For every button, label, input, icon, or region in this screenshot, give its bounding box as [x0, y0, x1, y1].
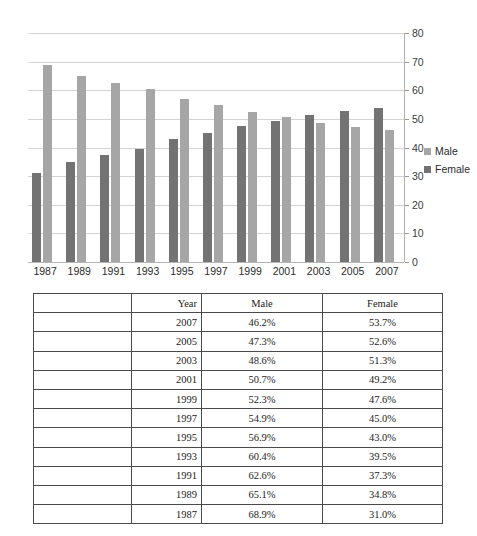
table-row: 199162.6%37.3%	[34, 466, 443, 485]
table-cell-female: 39.5%	[323, 447, 443, 466]
x-axis-label-2007: 2007	[370, 266, 404, 277]
legend-label-female: Female	[435, 164, 470, 175]
table-header-blank	[34, 294, 132, 313]
table-cell-blank	[34, 313, 132, 332]
table-cell-year: 1999	[132, 389, 202, 408]
table-cell-female: 31.0%	[323, 505, 443, 524]
legend-label-male: Male	[435, 146, 458, 157]
bar-group-1991	[96, 33, 130, 262]
gridline-0	[28, 262, 404, 263]
table-cell-female: 37.3%	[323, 466, 443, 485]
x-axis-label-1991: 1991	[96, 266, 130, 277]
bar-male-1997	[214, 105, 223, 262]
table-header-female: Female	[323, 294, 443, 313]
x-axis-label-2003: 2003	[301, 266, 335, 277]
bar-chart-figure: 80706050403020100 1987198919911993199519…	[0, 0, 477, 288]
bar-female-1993	[135, 149, 144, 262]
legend-item-male[interactable]: Male	[424, 142, 477, 160]
bar-male-1989	[77, 76, 86, 262]
table-row: 200547.3%52.6%	[34, 332, 443, 351]
bar-female-1997	[203, 133, 212, 262]
table-cell-male: 62.6%	[202, 466, 323, 485]
bar-female-1995	[169, 139, 178, 262]
table-row: 198965.1%34.8%	[34, 485, 443, 504]
bar-female-2005	[340, 111, 349, 262]
bar-male-1993	[146, 89, 155, 262]
y-axis-label-0: 0	[412, 257, 418, 268]
bar-male-1995	[180, 99, 189, 262]
bar-female-2001	[271, 121, 280, 262]
y-axis-label-80: 80	[412, 28, 424, 39]
bar-female-1989	[66, 162, 75, 262]
table-cell-male: 48.6%	[202, 351, 323, 370]
bar-male-2005	[351, 127, 360, 262]
x-axis-label-1989: 1989	[62, 266, 96, 277]
x-axis-label-1993: 1993	[131, 266, 165, 277]
table-cell-male: 47.3%	[202, 332, 323, 351]
legend-swatch-female-icon	[424, 166, 431, 173]
y-axis-label-40: 40	[412, 142, 424, 153]
y-axis-label-30: 30	[412, 171, 424, 182]
bar-group-1997	[199, 33, 233, 262]
table-cell-blank	[34, 351, 132, 370]
table-cell-blank	[34, 332, 132, 351]
table-row: 200746.2%53.7%	[34, 313, 443, 332]
table-cell-female: 52.6%	[323, 332, 443, 351]
table-cell-male: 68.9%	[202, 505, 323, 524]
bar-female-1999	[237, 126, 246, 262]
bar-group-1987	[28, 33, 62, 262]
table-cell-blank	[34, 466, 132, 485]
bar-male-1999	[248, 112, 257, 262]
table-cell-female: 49.2%	[323, 370, 443, 389]
bar-group-1995	[165, 33, 199, 262]
table-header-row: Year Male Female	[34, 294, 443, 313]
bar-group-1999	[233, 33, 267, 262]
legend-item-female[interactable]: Female	[424, 160, 477, 178]
bar-group-2003	[301, 33, 335, 262]
table-cell-blank	[34, 370, 132, 389]
bar-group-1993	[131, 33, 165, 262]
table-cell-year: 1995	[132, 428, 202, 447]
bar-group-2007	[370, 33, 404, 262]
y-tick-mark-50	[405, 119, 409, 120]
y-axis-label-50: 50	[412, 114, 424, 125]
table-cell-male: 50.7%	[202, 370, 323, 389]
bar-female-2003	[305, 115, 314, 262]
bar-female-2007	[374, 108, 383, 262]
bar-male-1987	[43, 65, 52, 262]
table-cell-blank	[34, 389, 132, 408]
table-row: 199952.3%47.6%	[34, 389, 443, 408]
table-row: 199556.9%43.0%	[34, 428, 443, 447]
table-cell-female: 45.0%	[323, 409, 443, 428]
table-row: 198768.9%31.0%	[34, 505, 443, 524]
table-cell-year: 2007	[132, 313, 202, 332]
x-axis-label-1997: 1997	[199, 266, 233, 277]
table-cell-year: 2003	[132, 351, 202, 370]
x-axis-label-1995: 1995	[165, 266, 199, 277]
table-header-year: Year	[132, 294, 202, 313]
table-cell-male: 54.9%	[202, 409, 323, 428]
y-tick-mark-70	[405, 62, 409, 63]
table-row: 199754.9%45.0%	[34, 409, 443, 428]
table-header: Year Male Female	[34, 294, 443, 313]
table-body: 200746.2%53.7%200547.3%52.6%200348.6%51.…	[34, 313, 443, 524]
table-cell-female: 43.0%	[323, 428, 443, 447]
y-tick-mark-10	[405, 233, 409, 234]
y-axis-label-20: 20	[412, 200, 424, 211]
chart-plot-area	[28, 33, 404, 262]
table-cell-female: 51.3%	[323, 351, 443, 370]
table-cell-male: 56.9%	[202, 428, 323, 447]
bar-group-2001	[267, 33, 301, 262]
table-cell-blank	[34, 428, 132, 447]
table-cell-year: 1987	[132, 505, 202, 524]
legend-swatch-male-icon	[424, 148, 431, 155]
y-tick-mark-60	[405, 90, 409, 91]
table-cell-female: 47.6%	[323, 389, 443, 408]
x-axis-label-1999: 1999	[233, 266, 267, 277]
bar-female-1987	[32, 173, 41, 262]
table-header-male: Male	[202, 294, 323, 313]
bar-male-2001	[282, 117, 291, 262]
table-cell-blank	[34, 447, 132, 466]
table-cell-year: 2005	[132, 332, 202, 351]
y-axis-label-70: 70	[412, 56, 424, 67]
